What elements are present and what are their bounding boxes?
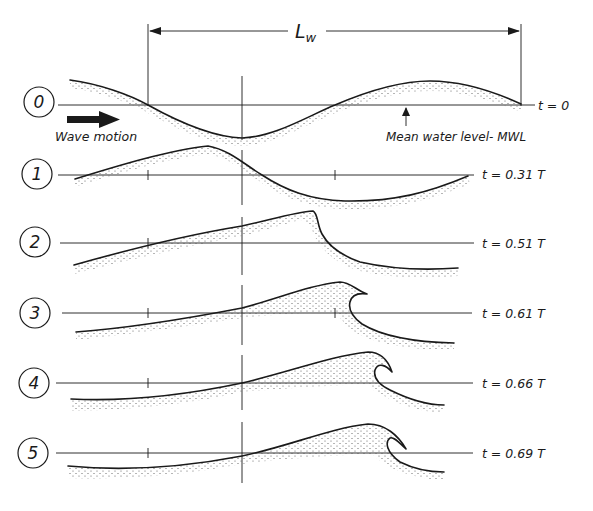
stage-0: 0 Wave motion Mean water level- MWL t = …	[24, 80, 569, 146]
stage-3: 3 t = 0.61 T	[20, 282, 546, 350]
wave-motion-arrow-icon	[67, 111, 120, 128]
stage-number: 0	[34, 92, 45, 112]
wave-breaking-diagram: Lw 0 Wave motion Mean water level- MWL t…	[0, 0, 593, 511]
stage-4: 4 t = 0.66 T	[19, 352, 546, 413]
stage-number: 5	[28, 443, 39, 463]
time-label: t = 0.31 T	[482, 167, 546, 182]
stage-number: 3	[30, 303, 41, 323]
stage-5: 5 t = 0.69 T	[18, 424, 546, 480]
wave-profile	[74, 211, 458, 269]
wave-profile	[75, 146, 468, 201]
time-label: t = 0.51 T	[482, 236, 546, 251]
wave-motion-label: Wave motion	[55, 129, 137, 144]
stage-number: 2	[30, 232, 41, 252]
wavelength-label: Lw	[295, 20, 317, 45]
mwl-label: Mean water level- MWL	[386, 130, 526, 144]
time-label: t = 0.66 T	[482, 376, 546, 391]
time-label: t = 0.61 T	[482, 306, 546, 321]
stage-number: 4	[29, 373, 40, 393]
stage-number: 1	[32, 164, 43, 184]
time-label: t = 0.69 T	[482, 446, 546, 461]
stage-1: 1 t = 0.31 T	[22, 146, 546, 209]
stage-2: 2 t = 0.51 T	[20, 211, 546, 278]
time-label: t = 0	[538, 98, 569, 113]
